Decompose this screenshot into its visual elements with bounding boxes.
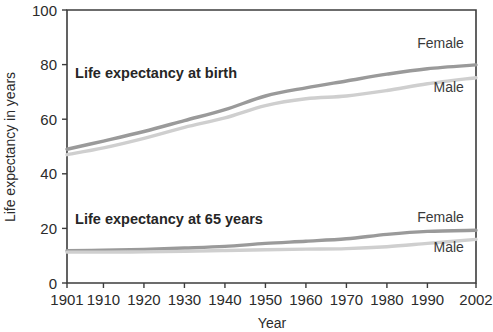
y-axis-title: Life expectancy in years — [2, 72, 18, 222]
y-tick-label: 100 — [32, 2, 57, 19]
x-tick-label: 1930 — [168, 291, 201, 308]
life-expectancy-line-chart: 020406080100 190119101920193019401950196… — [0, 0, 493, 332]
annotation-life-expectancy-at-birth: Life expectancy at birth — [75, 65, 237, 81]
x-tick-label: 1970 — [330, 291, 363, 308]
y-tick-label: 60 — [40, 111, 57, 128]
y-tick-label: 20 — [40, 220, 57, 237]
x-tick-label: 1990 — [411, 291, 444, 308]
y-tick-label: 40 — [40, 165, 57, 182]
x-tick-label: 2002 — [459, 291, 492, 308]
series-label-male: Male — [433, 79, 464, 95]
series-label-female: Female — [417, 35, 464, 51]
x-tick-label: 1910 — [87, 291, 120, 308]
series-label-female: Female — [417, 209, 464, 225]
y-tick-label: 0 — [49, 275, 57, 292]
y-tick-label: 80 — [40, 56, 57, 73]
x-tick-label: 1980 — [370, 291, 403, 308]
series-label-male: Male — [433, 239, 464, 255]
x-tick-label: 1920 — [127, 291, 160, 308]
annotation-life-expectancy-at-65-years: Life expectancy at 65 years — [75, 211, 263, 227]
x-tick-label: 1940 — [208, 291, 241, 308]
x-axis-title: Year — [258, 315, 287, 331]
x-tick-label: 1901 — [50, 291, 83, 308]
x-tick-label: 1950 — [249, 291, 282, 308]
chart-figure: 020406080100 190119101920193019401950196… — [0, 0, 493, 332]
x-tick-label: 1960 — [289, 291, 322, 308]
